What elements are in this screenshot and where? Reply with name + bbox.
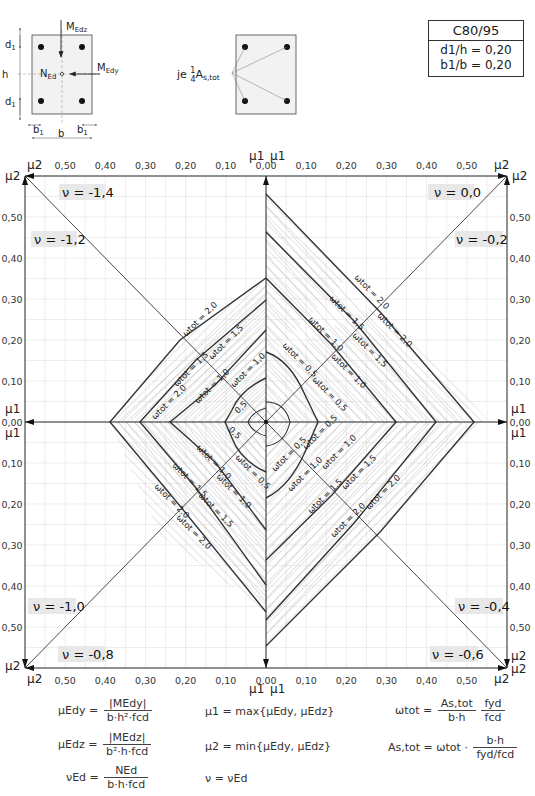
y-tick-right: 0,10: [509, 376, 530, 387]
nu-label-minus-0-4: ν = -0,4: [458, 599, 510, 614]
y-tick-left: 0,40: [1, 253, 22, 264]
nu-label-minus-1-0: ν = -1,0: [33, 599, 85, 614]
y-tick-right: 0,50: [509, 622, 530, 633]
x-tick-top: 0,10: [215, 160, 236, 171]
label-h: h: [2, 69, 8, 80]
y-tick-left: 0,40: [1, 581, 22, 592]
x-tick-bottom: 0,20: [336, 675, 357, 686]
axis-label-mu1-left-bottom: μ1: [5, 426, 20, 440]
material-box: C80/95 d1/h = 0,20 b1/b = 0,20: [428, 20, 524, 77]
x-tick-bottom: 0,30: [135, 675, 156, 686]
axis-label-mu1-top-left: μ1: [249, 149, 264, 163]
x-tick-top: 0,50: [55, 160, 76, 171]
y-tick-right: 0,30: [509, 294, 530, 305]
formula-mu-edz: μEdz = |MEdz|b²·h·fcd: [58, 731, 151, 758]
axis-label-mu2-br: μ2: [511, 649, 526, 663]
axis-label-mu2-bl-bottom: μ2: [27, 672, 42, 686]
axis-label-mu2-tr-top: μ2: [494, 158, 509, 172]
chart: 0,500,500,400,400,300,300,200,200,100,10…: [1, 149, 530, 696]
x-tick-bottom: 0,20: [175, 675, 196, 686]
formula-as-tot: As,tot = ωtot · b·hfyd/fcd: [388, 734, 517, 761]
section-sketch: [18, 20, 100, 138]
x-tick-bottom: 0,50: [456, 675, 477, 686]
hatched-region: [110, 194, 490, 646]
nu-label-minus-0-2: ν = -0,2: [456, 232, 508, 247]
ratio-d1-h: d1/h = 0,20: [429, 43, 523, 58]
y-tick-left: 0,50: [1, 622, 22, 633]
y-tick-left: 0,20: [1, 499, 22, 510]
x-tick-top: 0,20: [336, 160, 357, 171]
x-tick-bottom: 0,10: [296, 675, 317, 686]
axis-label-mu2-tl-top: μ2: [27, 158, 42, 172]
y-tick-right: 0,30: [509, 540, 530, 551]
formula-nu: ν = νEd: [205, 772, 247, 785]
nu-label-minus-1-2: ν = -1,2: [34, 232, 86, 247]
x-tick-top: 0,30: [135, 160, 156, 171]
y-tick-left: 0,10: [1, 458, 22, 469]
label-d1-top: d1: [5, 39, 16, 52]
label-b1-left: b1: [33, 124, 44, 137]
y-tick-right: 0,20: [509, 335, 530, 346]
x-tick-top: 0,50: [456, 160, 477, 171]
y-tick-right: 0,20: [509, 499, 530, 510]
label-b: b: [58, 128, 64, 139]
label-medz: MEdz: [66, 21, 88, 34]
axis-label-mu1-left-top: μ1: [5, 402, 20, 416]
formula-mu2: μ2 = min{μEdy, μEdz}: [205, 740, 331, 753]
reinforcement-sketch: [232, 35, 296, 114]
reinforcement-note: je 14As,tot: [176, 66, 220, 84]
axis-label-mu2-tr: μ2: [512, 169, 527, 183]
y-tick-right: 0,40: [509, 253, 530, 264]
axis-label-mu2-bl: μ2: [5, 659, 20, 673]
formula-nu-ed: νEd = NEdb·h·fcd: [66, 764, 148, 791]
y-tick-right: 0,10: [509, 458, 530, 469]
y-tick-right: 0,50: [509, 212, 530, 223]
axis-label-mu1-right-top: μ1: [511, 402, 526, 416]
axis-label-mu2-tl: μ2: [5, 169, 20, 183]
ratio-b1-b: b1/b = 0,20: [429, 58, 523, 73]
concrete-class: C80/95: [429, 21, 523, 41]
y-tick-left: 0,50: [1, 212, 22, 223]
nu-label-minus-1-4: ν = -1,4: [62, 185, 114, 200]
x-tick-bottom: 0,10: [215, 675, 236, 686]
y-tick-left: 0,10: [1, 376, 22, 387]
nu-label-minus-0-8: ν = -0,8: [62, 647, 114, 662]
figure-canvas: MEdz NEd MEdy d1 h d1 b1 b1 b je 14As,to…: [0, 0, 535, 796]
axis-label-mu1-bottom-left: μ1: [249, 682, 264, 696]
y-tick-left: 0,20: [1, 335, 22, 346]
omega-label-tr-20a: ωtot = 2,0: [353, 272, 392, 311]
x-tick-bottom: 0,40: [95, 675, 116, 686]
axis-label-mu1-bottom-right: μ1: [270, 682, 285, 696]
nu-label-0-0: ν = 0,0: [434, 185, 481, 200]
x-tick-top: 0,40: [416, 160, 437, 171]
axis-label-mu2-br-bottom: μ2: [494, 672, 509, 686]
label-d1-bottom: d1: [5, 96, 16, 109]
label-b1-right: b1: [77, 124, 88, 137]
y-tick-left: 0,30: [1, 540, 22, 551]
x-tick-bottom: 0,30: [376, 675, 397, 686]
x-tick-top: 0,40: [95, 160, 116, 171]
x-tick-top: 0,10: [296, 160, 317, 171]
axis-label-mu1-top-right: μ1: [270, 149, 285, 163]
y-tick-left: 0,30: [1, 294, 22, 305]
label-medy: MEdy: [97, 62, 119, 75]
axis-label-mu2-br-2: μ2: [511, 662, 526, 676]
y-tick-right: 0,40: [509, 581, 530, 592]
x-tick-top: 0,20: [175, 160, 196, 171]
x-tick-top: 0,30: [376, 160, 397, 171]
nu-label-minus-0-6: ν = -0,6: [432, 647, 484, 662]
formula-omega-tot: ωtot = As,totb·h fydfcd: [395, 697, 505, 724]
formula-mu1: μ1 = max{μEdy, μEdz}: [205, 705, 334, 718]
axis-label-mu1-right-bottom: μ1: [511, 426, 526, 440]
x-tick-bottom: 0,50: [55, 675, 76, 686]
x-tick-bottom: 0,40: [416, 675, 437, 686]
formula-mu-edy: μEdy = |MEdy|b·h²·fcd: [58, 697, 152, 724]
